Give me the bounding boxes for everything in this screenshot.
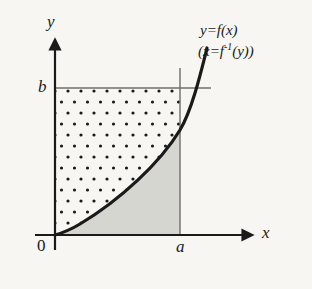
- tick-label-b: b: [38, 78, 47, 95]
- region-above-curve: [40, 70, 240, 270]
- x-axis-label: x: [262, 224, 270, 241]
- figure-canvas: y x 0 a b y=f(x) (x=f-1(y)): [0, 0, 312, 289]
- inverse-label-tail: (y)): [232, 43, 254, 59]
- curve-label-inverse-function: (x=f-1(y)): [198, 42, 254, 59]
- inverse-label-head: (x=f: [198, 43, 224, 59]
- origin-label: 0: [37, 237, 46, 254]
- tick-label-a: a: [176, 238, 185, 255]
- curve-label-function: y=f(x): [200, 23, 238, 38]
- diagram-svg: [0, 0, 312, 289]
- inverse-label-exponent: -1: [224, 41, 232, 52]
- y-axis-label: y: [47, 13, 55, 30]
